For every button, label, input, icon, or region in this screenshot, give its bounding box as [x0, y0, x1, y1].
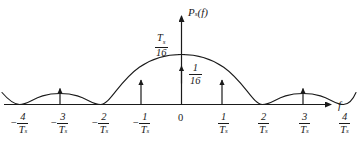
x-tick-den-neg1: Ts — [140, 124, 151, 135]
x-tick-fraction-neg2: 2 Ts — [98, 112, 109, 135]
x-tick-fraction-neg3: 3 Ts — [57, 112, 68, 135]
x-tick-fraction-pos2: 2 Ts — [258, 112, 269, 135]
x-tick-num-pos2: 2 — [260, 112, 267, 123]
x-tick-num-neg1: 1 — [141, 112, 148, 123]
x-tick-label-pos2: 2 Ts — [258, 112, 269, 135]
x-tick-den-pos1: Ts — [218, 124, 229, 135]
x-tick-num-pos3: 3 — [301, 112, 308, 123]
y-axis-label-arg: (f) — [197, 6, 207, 18]
x-tick-num-neg3: 3 — [59, 112, 66, 123]
x-tick-label-pos1: 1 Ts — [218, 112, 229, 135]
x-tick-label-pos4: 4 Ts — [339, 112, 350, 135]
x-tick-fraction-pos1: 1 Ts — [218, 112, 229, 135]
x-tick-label-pos3: 3 Ts — [299, 112, 310, 135]
x-tick-sign-neg2: − — [92, 118, 98, 129]
x-tick-den-neg3: Ts — [58, 124, 69, 135]
x-tick-den-neg4: Ts — [18, 124, 29, 135]
x-tick-num-pos4: 4 — [341, 112, 348, 123]
x-tick-num-pos1: 1 — [220, 112, 227, 123]
impulse-weight-numerator: 1 — [192, 63, 199, 74]
x-tick-label-neg4: − 4 Ts — [11, 112, 28, 135]
x-tick-label-neg1: − 1 Ts — [133, 112, 150, 135]
x-tick-den-pos2: Ts — [258, 124, 269, 135]
x-tick-fraction-neg1: 1 Ts — [139, 112, 150, 135]
x-tick-fraction-pos3: 3 Ts — [299, 112, 310, 135]
x-tick-den-pos4: Ts — [339, 124, 350, 135]
x-tick-sign-neg4: − — [11, 118, 17, 129]
x-tick-den-neg2: Ts — [99, 124, 110, 135]
psd-figure: Ps(f) f Ts 16 1 16 − 4 Ts − 3 Ts − 2 — [0, 0, 357, 145]
x-tick-num-neg4: 4 — [19, 112, 26, 123]
x-tick-fraction-neg4: 4 Ts — [17, 112, 28, 135]
x-tick-num-neg2: 2 — [100, 112, 107, 123]
x-tick-label-neg2: − 2 Ts — [92, 112, 109, 135]
x-axis-label: f — [338, 99, 341, 111]
x-tick-label-neg3: − 3 Ts — [51, 112, 68, 135]
impulse-weight-label: 1 16 — [189, 63, 202, 86]
x-tick-label-zero: 0 — [178, 112, 183, 123]
peak-value-label: Ts 16 — [155, 33, 168, 59]
peak-value-numerator: Ts — [156, 33, 167, 47]
peak-value-denominator: 16 — [155, 48, 168, 59]
y-axis-label-main: P — [188, 6, 195, 18]
x-tick-fraction-pos4: 4 Ts — [339, 112, 350, 135]
x-tick-sign-neg3: − — [51, 118, 57, 129]
x-tick-sign-neg1: − — [133, 118, 139, 129]
x-tick-den-pos3: Ts — [299, 124, 310, 135]
spectrum-lobe-far-right — [344, 93, 357, 105]
spectrum-lobe-far-left — [2, 93, 20, 105]
y-axis-label: Ps(f) — [188, 6, 208, 18]
impulse-weight-denominator: 16 — [189, 75, 202, 86]
